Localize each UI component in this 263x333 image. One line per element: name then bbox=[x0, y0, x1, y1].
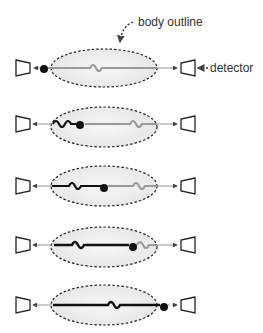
detector-left-icon bbox=[16, 297, 30, 313]
row-5 bbox=[16, 285, 195, 325]
detector-right-icon bbox=[181, 116, 195, 132]
detector-right-icon bbox=[181, 297, 195, 313]
source-dot bbox=[160, 303, 168, 311]
source-dot bbox=[76, 121, 84, 129]
detector-label: detector bbox=[210, 61, 253, 75]
row-4 bbox=[16, 227, 195, 267]
detector-right-icon bbox=[181, 237, 195, 253]
callout-arrow bbox=[120, 22, 133, 42]
detector-left-icon bbox=[16, 237, 30, 253]
detector-left-icon bbox=[16, 178, 30, 194]
source-dot bbox=[100, 184, 108, 192]
detector-left-icon bbox=[16, 60, 30, 76]
detector-left-icon bbox=[16, 116, 30, 132]
row-3 bbox=[16, 166, 195, 206]
source-dot bbox=[129, 243, 137, 251]
detector-right-icon bbox=[181, 60, 195, 76]
row-2 bbox=[16, 107, 195, 147]
body-outline-ellipse bbox=[51, 227, 157, 267]
row-1 bbox=[16, 49, 208, 87]
source-dot bbox=[40, 65, 48, 73]
body-outline-label: body outline bbox=[138, 15, 203, 29]
diagram-canvas bbox=[0, 0, 263, 333]
detector-right-icon bbox=[181, 178, 195, 194]
